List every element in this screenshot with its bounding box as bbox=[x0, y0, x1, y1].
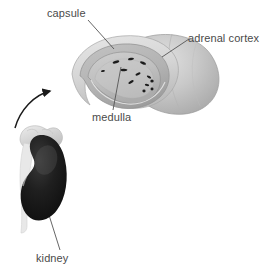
label-medulla: medulla bbox=[92, 111, 131, 123]
label-capsule: capsule bbox=[47, 7, 86, 19]
anatomy-figure: capsule adrenal cortex medulla kidney bbox=[0, 0, 267, 279]
label-adrenal-cortex: adrenal cortex bbox=[188, 32, 259, 44]
magnification-arrow bbox=[15, 91, 50, 128]
label-kidney: kidney bbox=[36, 252, 68, 264]
kidney-inset bbox=[20, 126, 67, 233]
adrenal-gland-cutaway bbox=[72, 34, 219, 114]
